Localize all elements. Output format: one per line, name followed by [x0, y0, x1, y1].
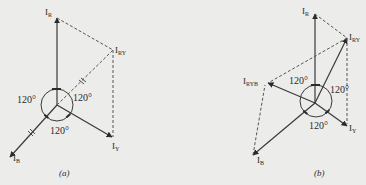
label-iryb-b: IRYB	[243, 76, 258, 87]
angle-label-b3: 120°	[309, 120, 328, 131]
angle-label-a3: 120°	[50, 125, 69, 136]
angle-label-a2: 120°	[73, 92, 92, 103]
dashed-ir-to-iry-b	[315, 14, 347, 38]
dashed-ib-to-iryb-b	[253, 85, 265, 155]
label-ib-a: IB	[13, 153, 20, 164]
angle-label-a1: 120°	[17, 94, 36, 105]
label-iry-a: IRY	[115, 45, 127, 56]
angle-label-b1: 120°	[289, 75, 308, 86]
angle-label-b2: 120°	[330, 84, 349, 95]
label-ib-b: IB	[257, 155, 264, 166]
caption-a: (a)	[59, 168, 70, 178]
label-ir-b: IR	[302, 6, 309, 17]
dashed-ir-to-iry-a	[57, 18, 113, 50]
diagram-a: 120° 120° 120° IR IRY IY IB (a)	[10, 7, 127, 178]
phasor-ib-b	[253, 103, 315, 155]
label-iry-b: IRY	[349, 32, 361, 43]
phasor-iryb-b	[268, 83, 315, 103]
diagram-b: 120° 120° 120° IR IRY IY IB IRYB (b)	[243, 6, 361, 178]
caption-b: (b)	[314, 168, 325, 178]
label-ir-a: IR	[45, 7, 52, 18]
label-iy-a: IY	[112, 141, 120, 152]
label-iy-b: IY	[349, 123, 357, 134]
phasor-diagrams: 120° 120° 120° IR IRY IY IB (a) 120° 120…	[0, 0, 366, 185]
